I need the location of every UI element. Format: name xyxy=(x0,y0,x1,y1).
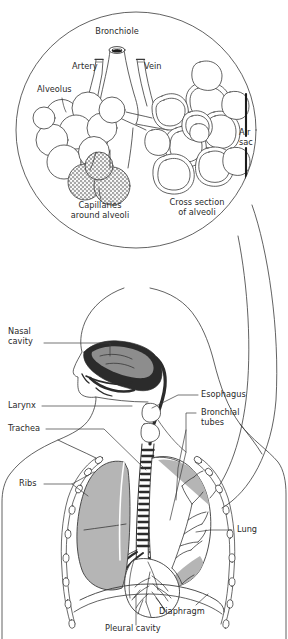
label-ribs: Ribs xyxy=(19,479,37,489)
leader-trachea xyxy=(46,429,146,470)
cross-section-alveoli xyxy=(145,61,250,194)
label-bronchiole: Bronchiole xyxy=(79,27,155,37)
label-vein: Vein xyxy=(144,62,162,72)
label-capillaries-around-alveoli: Capillaries around alveoli xyxy=(50,201,150,220)
label-bronchial-tubes: Bronchial tubes xyxy=(201,408,239,427)
anatomy-illustration xyxy=(0,0,288,639)
label-trachea: Trachea xyxy=(8,424,40,434)
alveoli-detail-contents xyxy=(33,47,250,205)
label-diaphragm: Diaphragm xyxy=(159,607,205,617)
label-lung: Lung xyxy=(237,525,257,535)
label-artery: Artery xyxy=(72,62,98,72)
left-lung xyxy=(77,461,130,590)
label-cross-section-of-alveoli: Cross section of alveoli xyxy=(154,198,240,217)
label-alveolus: Alveolus xyxy=(37,85,72,95)
magnification-cone-lines xyxy=(210,205,277,508)
label-larynx: Larynx xyxy=(8,401,36,411)
label-nasal-cavity: Nasal cavity xyxy=(8,327,33,346)
esophagus-line xyxy=(158,420,186,452)
label-pleural-cavity: Pleural cavity xyxy=(105,624,161,634)
label-esophagus: Esophagus xyxy=(201,390,246,400)
nasal-oral-cavity xyxy=(82,341,165,444)
label-air-sac: Air sac xyxy=(239,128,253,147)
respiratory-system-figure: Bronchiole Artery Vein Alveolus Air sac … xyxy=(0,0,288,639)
